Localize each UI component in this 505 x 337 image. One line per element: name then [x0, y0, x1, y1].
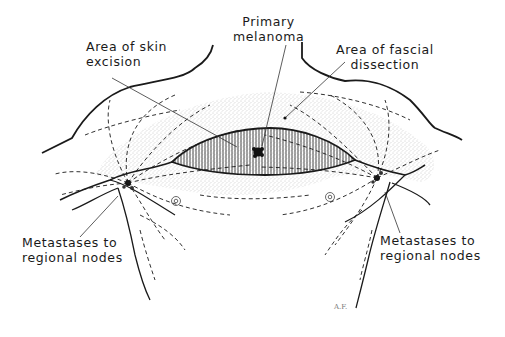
left-arm-line [118, 188, 150, 300]
label-metastases-left: Metastases to regional nodes [22, 235, 123, 265]
right-nipple [326, 193, 335, 202]
label-skin-excision: Area of skin excision [86, 39, 167, 69]
artist-signature: A.F. [334, 303, 347, 311]
medical-illustration: Area of skin excision Primary melanoma A… [0, 0, 505, 337]
label-metastases-right: Metastases to regional nodes [380, 233, 481, 263]
melanoma-lesion [252, 147, 264, 158]
label-fascial-dissection: Area of fascial dissection [336, 42, 434, 72]
label-primary-melanoma: Primary melanoma [233, 14, 304, 44]
